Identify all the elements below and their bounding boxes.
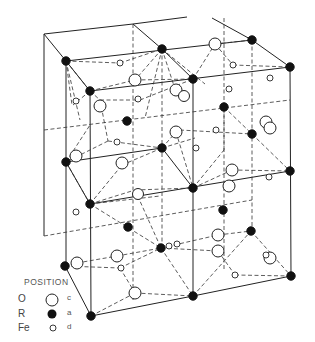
large-open-circle-icon: [44, 292, 60, 308]
filled-circle-icon: [46, 308, 58, 320]
legend-row-rare-earth: R a: [10, 308, 110, 322]
legend-site-label: a: [67, 308, 71, 317]
legend-row-iron: Fe d: [10, 322, 110, 336]
legend: POSITION O c R a Fe d: [10, 277, 120, 337]
legend-title: POSITION: [24, 277, 69, 287]
legend-site-label: d: [67, 322, 71, 331]
oxygen-c-site-atoms: [70, 38, 276, 299]
legend-element-label: Fe: [18, 322, 30, 333]
legend-site-label: c: [67, 293, 71, 302]
legend-element-label: O: [18, 293, 26, 304]
dashed-bonds: [44, 18, 291, 316]
legend-element-label: R: [18, 308, 25, 319]
small-open-circle-icon: [48, 323, 58, 333]
legend-row-oxygen: O c: [10, 293, 110, 307]
